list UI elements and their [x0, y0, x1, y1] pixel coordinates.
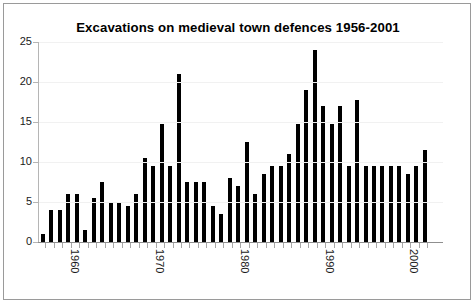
x-tick-mark [147, 243, 148, 248]
bar [296, 124, 300, 242]
x-tick-mark [223, 243, 224, 248]
bar [355, 100, 359, 242]
bar [397, 166, 401, 242]
bar [41, 234, 45, 242]
x-tick-mark [130, 243, 131, 248]
x-tick-mark [240, 243, 241, 248]
bar [143, 158, 147, 242]
x-tick-mark [113, 243, 114, 248]
bar [83, 230, 87, 242]
bar [262, 174, 266, 242]
bar [270, 166, 274, 242]
x-tick-mark [385, 243, 386, 248]
gridline [39, 82, 443, 83]
x-tick-mark [249, 243, 250, 248]
x-tick-mark [266, 243, 267, 248]
bar [347, 166, 351, 242]
bar [245, 142, 249, 242]
bar [185, 182, 189, 242]
x-tick-mark [283, 243, 284, 248]
x-tick-mark [105, 243, 106, 248]
bar [304, 90, 308, 242]
x-tick-mark [232, 243, 233, 248]
x-tick-mark [139, 243, 140, 248]
bar [279, 166, 283, 242]
x-tick-mark [156, 243, 157, 248]
x-tick-mark [198, 243, 199, 248]
x-tick-mark [71, 243, 72, 248]
x-tick-mark [257, 243, 258, 248]
x-tick-mark [359, 243, 360, 248]
x-tick-label: 2000 [408, 249, 419, 273]
x-tick-mark [291, 243, 292, 248]
bar [313, 50, 317, 242]
x-tick-mark [402, 243, 403, 248]
x-tick-mark [410, 243, 411, 248]
bar [58, 210, 62, 242]
bar [228, 178, 232, 242]
bar [372, 166, 376, 242]
chart-title: Excavations on medieval town defences 19… [0, 20, 476, 35]
chart-figure: Excavations on medieval town defences 19… [0, 0, 476, 304]
bar [126, 206, 130, 242]
x-tick-mark [393, 243, 394, 248]
bar [168, 166, 172, 242]
bar [211, 206, 215, 242]
bar [100, 182, 104, 242]
x-tick-mark [215, 243, 216, 248]
x-tick-mark [427, 243, 428, 248]
gridline [39, 122, 443, 123]
x-tick-mark [308, 243, 309, 248]
bar [414, 166, 418, 242]
x-tick-mark [88, 243, 89, 248]
x-axis-labels: 19601970198019902000 [38, 249, 443, 299]
x-tick-mark [342, 243, 343, 248]
x-tick-mark [164, 243, 165, 248]
bar [338, 106, 342, 242]
x-tick-mark [54, 243, 55, 248]
x-tick-mark [96, 243, 97, 248]
bar [49, 210, 53, 242]
x-tick-mark [206, 243, 207, 248]
bar [423, 150, 427, 242]
x-tick-mark [122, 243, 123, 248]
bar [236, 186, 240, 242]
bar [330, 124, 334, 242]
x-tick-label: 1970 [154, 249, 165, 273]
bar [364, 166, 368, 242]
x-tick-mark [351, 243, 352, 248]
bar [151, 166, 155, 242]
x-tick-label: 1980 [239, 249, 250, 273]
x-tick-mark [45, 243, 46, 248]
bar [389, 166, 393, 242]
bar [194, 182, 198, 242]
bar [177, 74, 181, 242]
x-tick-mark [317, 243, 318, 248]
x-tick-mark [62, 243, 63, 248]
bar [406, 174, 410, 242]
x-tick-mark [334, 243, 335, 248]
x-tick-mark [300, 243, 301, 248]
x-tick-mark [189, 243, 190, 248]
x-tick-mark [274, 243, 275, 248]
x-tick-mark [173, 243, 174, 248]
bar [287, 154, 291, 242]
x-tick-mark [376, 243, 377, 248]
x-tick-mark [79, 243, 80, 248]
x-tick-mark [325, 243, 326, 248]
plot-area [38, 42, 443, 242]
bar [321, 106, 325, 242]
gridline [39, 162, 443, 163]
bar-series [39, 42, 443, 242]
bar [117, 202, 121, 242]
bar [92, 198, 96, 242]
x-tick-mark [368, 243, 369, 248]
x-tick-label: 1990 [324, 249, 335, 273]
bar [380, 166, 384, 242]
x-tick-mark [181, 243, 182, 248]
bar [109, 202, 113, 242]
x-tick-mark [419, 243, 420, 248]
bar [219, 214, 223, 242]
bar [202, 182, 206, 242]
bar [160, 124, 164, 242]
